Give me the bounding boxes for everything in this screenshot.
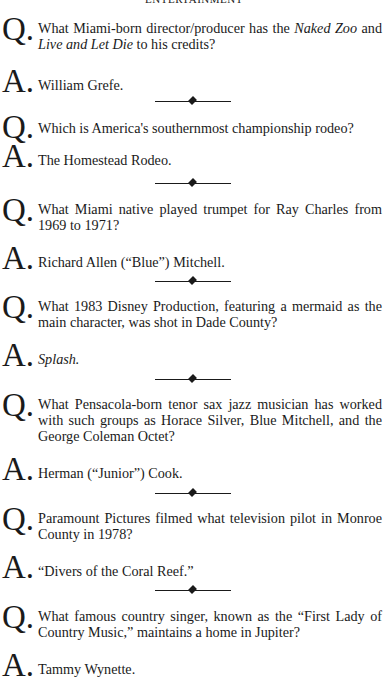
question-marker: Q.: [2, 194, 34, 227]
section-divider: [155, 488, 231, 498]
diamond-icon: [188, 276, 197, 285]
answer-text: The Homestead Rodeo.: [38, 152, 382, 168]
section-divider: [155, 96, 231, 106]
answer-text: Splash.: [38, 351, 382, 367]
film-title: Live and Let Die: [38, 36, 133, 52]
answer-text: Herman (“Junior”) Cook.: [38, 465, 382, 481]
question-text: What 1983 Disney Production, featuring a…: [38, 298, 382, 330]
answer-text: “Divers of the Coral Reef.”: [38, 563, 382, 579]
answer-text: Richard Allen (“Blue”) Mitchell.: [38, 254, 382, 270]
question-text: What Pensacola-born tenor sax jazz music…: [38, 396, 382, 444]
answer-marker: A.: [2, 339, 34, 372]
section-divider: [155, 374, 231, 384]
answer-text: William Grefe.: [38, 77, 382, 93]
section-divider: [155, 276, 231, 286]
question-text: What Miami native played trumpet for Ray…: [38, 201, 382, 233]
question-text: Which is America's southernmost champion…: [38, 120, 382, 136]
diamond-icon: [188, 374, 197, 383]
question-text: What Miami-born director/producer has th…: [38, 20, 382, 52]
film-title: Naked Zoo: [294, 20, 357, 36]
answer-marker: A.: [2, 65, 34, 98]
answer-marker: A.: [2, 649, 34, 681]
section-divider: [155, 585, 231, 595]
answer-marker: A.: [2, 242, 34, 275]
running-head: ENTERTAINMENT: [0, 0, 388, 5]
question-marker: Q.: [2, 601, 34, 634]
question-marker: Q.: [2, 291, 34, 324]
question-text: Paramount Pictures filmed what televisio…: [38, 510, 382, 542]
answer-text: Tammy Wynette.: [38, 661, 382, 677]
question-marker: Q.: [2, 503, 34, 536]
diamond-icon: [188, 488, 197, 497]
question-marker: Q.: [2, 389, 34, 422]
section-divider: [155, 178, 231, 188]
diamond-icon: [188, 96, 197, 105]
diamond-icon: [188, 585, 197, 594]
question-marker: Q.: [2, 13, 34, 46]
answer-marker: A.: [2, 551, 34, 584]
question-text: What famous country singer, known as the…: [38, 608, 382, 640]
diamond-icon: [188, 178, 197, 187]
answer-marker: A.: [2, 140, 34, 173]
answer-marker: A.: [2, 453, 34, 486]
